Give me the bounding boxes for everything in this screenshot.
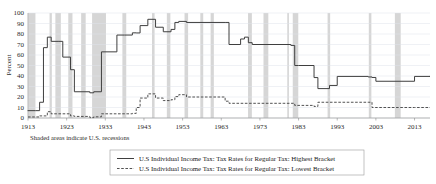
y-tick-label: 50 <box>17 62 25 70</box>
x-tick-label: 1973 <box>253 123 268 131</box>
y-axis-title: Percent <box>5 54 13 75</box>
y-tick-label: 0 <box>21 114 25 122</box>
x-tick-label: 1993 <box>330 123 345 131</box>
y-tick-label: 20 <box>17 93 25 101</box>
x-axis-tick-labels: 1913192319331943195319631973198319932003… <box>21 118 422 131</box>
y-tick-label: 40 <box>17 72 25 80</box>
x-tick-label: 1983 <box>292 123 307 131</box>
y-tick-label: 60 <box>17 51 25 59</box>
y-tick-label: 90 <box>17 20 25 28</box>
x-tick-label: 1943 <box>137 123 152 131</box>
x-tick-label: 1923 <box>60 123 75 131</box>
y-tick-label: 30 <box>17 83 25 91</box>
x-tick-label: 2013 <box>408 123 423 131</box>
x-tick-label: 1913 <box>21 123 36 131</box>
x-tick-label: 1933 <box>98 123 113 131</box>
y-axis-tick-labels: 0102030405060708090100 <box>14 9 25 122</box>
x-tick-label: 1953 <box>176 123 191 131</box>
chart-container: 0102030405060708090100 19131923193319431… <box>0 0 436 184</box>
recession-note: Shaded areas indicate U.S. recessions <box>30 134 130 141</box>
x-tick-label: 1963 <box>214 123 229 131</box>
legend-label-lowest-bracket: U.S Individual Income Tax: Tax Rates for… <box>139 165 334 172</box>
y-tick-label: 80 <box>17 30 25 38</box>
chart-legend: U.S Individual Income Tax: Tax Rates for… <box>110 150 364 175</box>
x-tick-label: 2003 <box>369 123 384 131</box>
y-tick-label: 100 <box>14 9 25 17</box>
y-tick-label: 10 <box>17 104 25 112</box>
y-tick-label: 70 <box>17 41 25 49</box>
tax-rates-line-chart: 0102030405060708090100 19131923193319431… <box>0 0 436 184</box>
legend-label-highest-bracket: U.S Individual Income Tax: Tax Rates for… <box>139 155 335 162</box>
